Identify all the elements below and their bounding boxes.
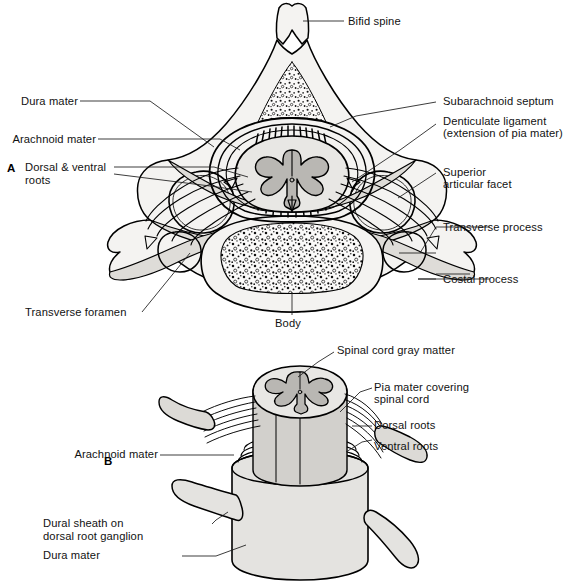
panel-a-artwork bbox=[80, 4, 490, 315]
label-pia-mater-line2: spinal cord bbox=[374, 393, 429, 406]
label-superior-articular-facet-line2: articular facet bbox=[443, 178, 512, 191]
anatomy-figure: A B Bifid spine Subarachnoid septum Dent… bbox=[0, 0, 584, 588]
label-spinal-cord-gray-matter: Spinal cord gray matter bbox=[337, 344, 455, 357]
label-transverse-process: Transverse process bbox=[443, 221, 543, 234]
label-subarachnoid-septum: Subarachnoid septum bbox=[443, 95, 554, 108]
label-dural-sheath-line2: dorsal root ganglion bbox=[43, 530, 143, 543]
label-superior-articular-facet-line1: Superior bbox=[443, 166, 486, 179]
label-denticulate-ligament-line1: Denticulate ligament bbox=[443, 115, 546, 128]
label-body: Body bbox=[275, 317, 301, 330]
label-arachnoid-mater-b: Arachnoid mater bbox=[30, 448, 158, 461]
label-bifid-spine: Bifid spine bbox=[348, 15, 401, 28]
label-ventral-roots: Ventral roots bbox=[374, 440, 438, 453]
label-dura-mater-a: Dura mater bbox=[0, 95, 78, 108]
label-pia-mater-line1: Pia mater covering bbox=[374, 381, 469, 394]
panel-a-letter: A bbox=[7, 162, 15, 174]
label-transverse-foramen: Transverse foramen bbox=[25, 306, 127, 319]
label-dural-sheath-line1: Dural sheath on bbox=[43, 517, 123, 530]
label-dura-mater-b: Dura mater bbox=[43, 549, 100, 562]
label-dorsal-ventral-roots-line2: roots bbox=[25, 174, 50, 187]
label-costal-process: Costal process bbox=[443, 273, 518, 286]
label-denticulate-ligament-line2: (extension of pia mater) bbox=[443, 127, 563, 140]
label-dorsal-ventral-roots-line1: Dorsal & ventral bbox=[25, 161, 106, 174]
label-dorsal-roots: Dorsal roots bbox=[374, 419, 436, 432]
label-arachnoid-mater-a: Arachnoid mater bbox=[0, 133, 96, 146]
figure-artwork bbox=[0, 0, 584, 588]
